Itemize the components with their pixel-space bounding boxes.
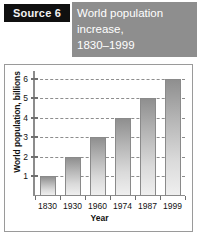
x-tick <box>85 196 86 200</box>
y-tick-label: 1 <box>16 172 28 180</box>
bar <box>115 118 131 196</box>
figure-header: Source 6 World population increase, 1830… <box>0 0 197 57</box>
bar-series <box>35 71 185 196</box>
title-line-1: World population <box>77 5 193 21</box>
y-tick-label: 5 <box>16 94 28 102</box>
bar <box>165 79 181 196</box>
x-axis-title: Year <box>5 213 194 223</box>
source-badge: Source 6 <box>4 4 70 22</box>
bar <box>65 157 81 196</box>
figure-title: World population increase, 1830–1999 <box>72 2 197 57</box>
y-tick-label: 4 <box>16 114 28 122</box>
plot-area: 123456 <box>33 71 185 196</box>
x-tick <box>135 196 136 200</box>
x-tick <box>60 196 61 200</box>
x-tick <box>35 196 36 200</box>
title-line-2: increase, <box>77 21 193 37</box>
y-tick-label: 3 <box>16 133 28 141</box>
bar <box>140 98 156 196</box>
title-line-3: 1830–1999 <box>77 37 193 53</box>
x-tick <box>110 196 111 200</box>
figure-root: Source 6 World population increase, 1830… <box>0 0 197 236</box>
bar <box>90 137 106 196</box>
x-tick-label: 1999 <box>158 201 188 211</box>
x-axis-tick-labels: 183019301960197419871999 <box>19 201 194 213</box>
y-tick-label: 2 <box>16 153 28 161</box>
y-tick-label: 6 <box>16 75 28 83</box>
x-tick <box>160 196 161 200</box>
x-tick <box>185 196 186 200</box>
chart-frame: World population, billions 123456 183019… <box>4 64 193 232</box>
bar <box>40 176 56 196</box>
